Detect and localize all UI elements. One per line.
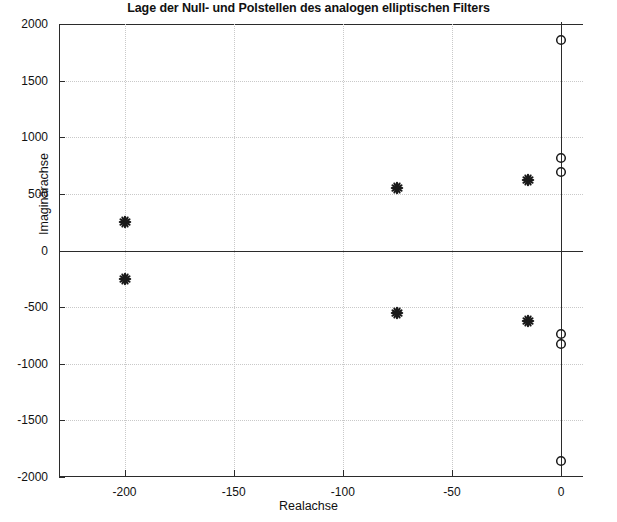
x-axis-tick — [452, 470, 453, 477]
x-axis-zero-line — [59, 251, 583, 252]
y-axis-tick-label: -2000 — [17, 470, 48, 484]
x-axis-tick-label: -50 — [443, 485, 460, 499]
y-axis-tick — [59, 194, 65, 195]
x-axis-tick — [343, 470, 344, 477]
y-axis-tick-label: -1500 — [17, 413, 48, 427]
y-axis-zero-line — [561, 22, 562, 477]
y-axis-tick — [59, 81, 65, 82]
x-axis-tick — [234, 470, 235, 477]
y-axis-tick — [59, 24, 65, 25]
y-axis-tick — [59, 420, 65, 421]
y-axis-tick-label: -500 — [24, 300, 48, 314]
y-axis-tick-label: 1500 — [21, 74, 48, 88]
y-axis-tick — [59, 477, 65, 478]
x-axis-tick — [561, 470, 562, 477]
x-axis-tick-label: -150 — [222, 485, 246, 499]
x-axis-label: Realachse — [0, 499, 617, 513]
y-axis-tick-label: -1000 — [17, 357, 48, 371]
x-axis-tick-label: -100 — [331, 485, 355, 499]
chart-title: Lage der Null- und Polstellen des analog… — [0, 1, 617, 15]
x-axis-tick-label: 0 — [558, 485, 565, 499]
y-axis-tick-label: 2000 — [21, 17, 48, 31]
y-axis-tick — [59, 364, 65, 365]
pole-zero-chart-figure: Lage der Null- und Polstellen des analog… — [0, 0, 617, 522]
y-axis-tick — [59, 251, 65, 252]
plot-area: -2000-1500-1000-5000500100015002000-200-… — [59, 24, 583, 477]
x-axis-tick-label: -200 — [112, 485, 136, 499]
y-axis-tick — [59, 307, 65, 308]
y-axis-label: Imaginärachse — [37, 114, 51, 274]
y-axis-tick — [59, 137, 65, 138]
x-axis-tick — [125, 470, 126, 477]
